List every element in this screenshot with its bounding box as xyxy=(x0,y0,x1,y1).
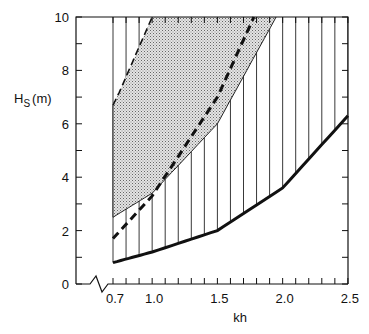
stippled-region xyxy=(113,17,276,217)
x-tick-label: 1.0 xyxy=(145,291,163,306)
x-tick-label: 1.5 xyxy=(210,291,228,306)
x-axis-title: kh xyxy=(233,310,247,325)
chart: 0.71.01.52.02.50246810 kh HS(m) xyxy=(0,0,369,334)
y-tick-label: 0 xyxy=(62,277,69,292)
y-tick-label: 10 xyxy=(55,10,69,25)
y-tick-label: 8 xyxy=(62,63,69,78)
x-tick-label: 2.0 xyxy=(276,291,294,306)
x-tick-label: 0.7 xyxy=(106,291,124,306)
y-tick-label: 4 xyxy=(62,170,69,185)
x-axis-with-break xyxy=(76,276,348,292)
y-axis-title: HS(m) xyxy=(14,91,52,109)
y-tick-label: 2 xyxy=(62,224,69,239)
y-tick-label: 6 xyxy=(62,117,69,132)
x-tick-label: 2.5 xyxy=(341,291,359,306)
